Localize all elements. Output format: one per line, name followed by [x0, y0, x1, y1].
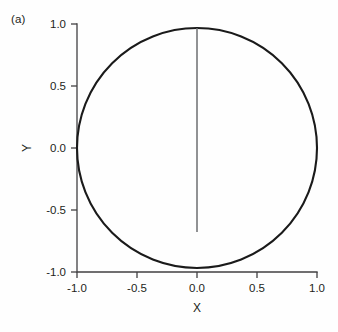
y-tick-label: 0.0 — [50, 142, 66, 154]
y-tick-label: 1.0 — [50, 18, 66, 30]
x-axis-tickmarks — [77, 272, 317, 278]
y-tick-label: -0.5 — [46, 204, 66, 216]
y-tick-label: 0.5 — [50, 80, 66, 92]
x-axis-title: X — [193, 301, 201, 315]
x-tick-label: -1.0 — [67, 282, 87, 294]
y-axis-title: Y — [20, 144, 34, 152]
y-tick-label: -1.0 — [46, 266, 66, 278]
x-tick-label: -0.5 — [127, 282, 147, 294]
x-tick-label: 0.5 — [249, 282, 265, 294]
plot-canvas: 1.0 0.5 0.0 -0.5 -1.0 -1.0 -0.5 0.0 0.5 … — [0, 0, 338, 332]
y-axis-tick-labels: 1.0 0.5 0.0 -0.5 -1.0 — [46, 18, 66, 278]
figure-panel-a: (a) 1.0 0.5 0.0 -0.5 -1.0 — [0, 0, 338, 332]
x-axis-tick-labels: -1.0 -0.5 0.0 0.5 1.0 — [67, 282, 325, 294]
x-tick-label: 1.0 — [309, 282, 325, 294]
x-tick-label: 0.0 — [189, 282, 205, 294]
